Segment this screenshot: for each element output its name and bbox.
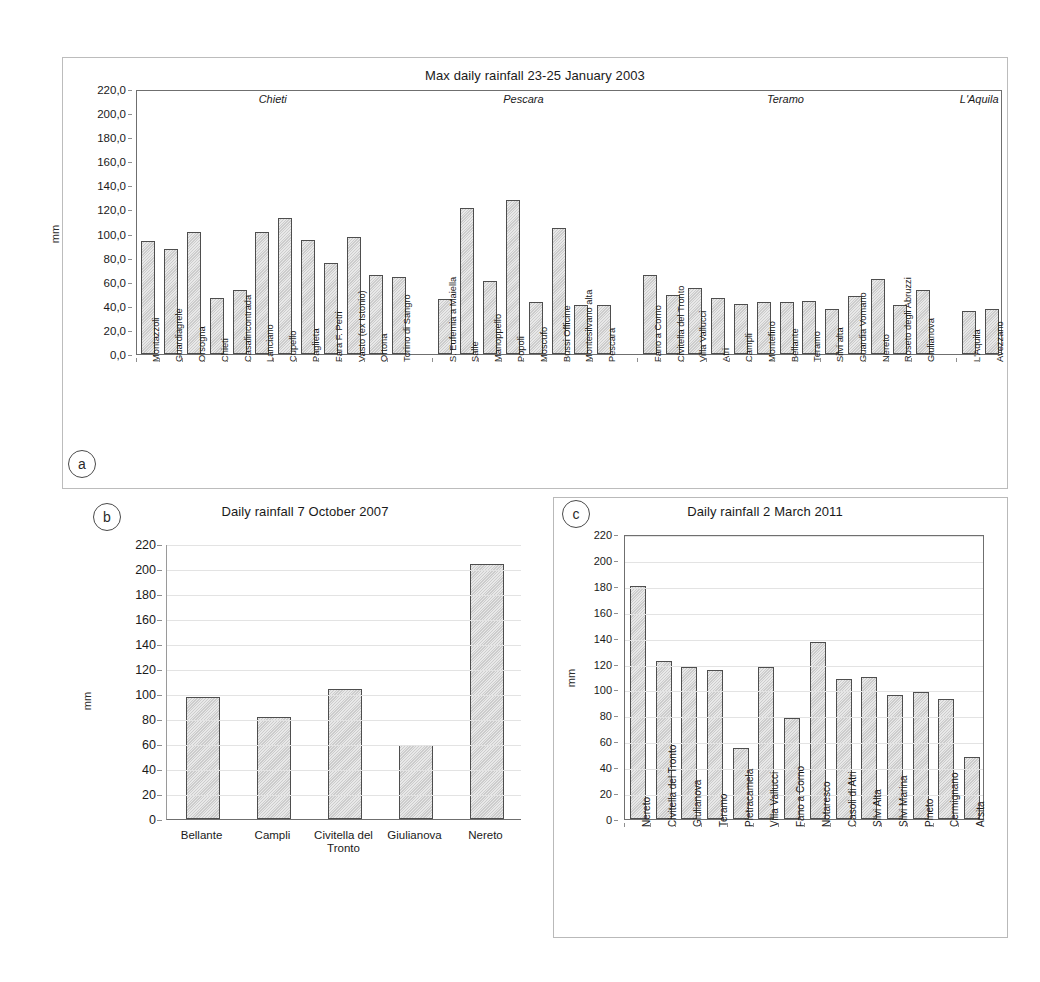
y-tick-mark <box>614 665 618 666</box>
y-tick-label: 220,0 <box>58 84 132 96</box>
x-tick-label: Guardiagrele <box>174 308 184 362</box>
panel-c-letter: c <box>573 506 580 522</box>
x-tick-mark <box>364 358 365 362</box>
x-tick-label: Torino di Sangro <box>402 294 412 362</box>
x-tick-mark <box>546 358 547 362</box>
grid-line <box>625 536 983 537</box>
grid-line <box>167 745 521 746</box>
x-tick-label: Teramo <box>812 331 822 362</box>
x-tick-label: L'Aquila <box>972 329 982 362</box>
y-tick-mark <box>614 690 618 691</box>
y-tick-label: 160 <box>572 607 618 619</box>
y-tick-label: 40,0 <box>58 301 132 313</box>
x-tick-label: Arsita <box>975 801 986 827</box>
group-label-teramo: Teramo <box>637 93 933 105</box>
bar <box>506 200 520 354</box>
x-tick-mark <box>933 823 934 827</box>
y-tick-label: 80 <box>94 713 162 727</box>
x-tick-mark <box>907 823 908 827</box>
panel-a-plot: 0,020,040,060,080,0100,0120,0140,0160,01… <box>64 90 1008 365</box>
x-tick-label: Cermignano <box>949 773 960 827</box>
x-tick-label: Orsogna <box>197 326 207 362</box>
y-tick-label: 180 <box>94 588 162 602</box>
x-tick-label: Atri <box>721 348 731 362</box>
y-tick-label: 160,0 <box>58 156 132 168</box>
grid-line <box>167 770 521 771</box>
x-tick-mark <box>706 358 707 362</box>
y-tick-label: 200 <box>572 555 618 567</box>
x-tick-mark <box>159 358 160 362</box>
x-tick-mark <box>865 358 866 362</box>
y-tick-mark <box>128 210 132 211</box>
x-tick-mark <box>296 358 297 362</box>
x-tick-label: Nereto <box>881 334 891 362</box>
y-tick-label: 0 <box>94 813 162 827</box>
x-tick-label: Civitella del Tronto <box>308 829 379 855</box>
x-tick-mark <box>569 358 570 362</box>
x-tick-mark <box>227 358 228 362</box>
x-tick-label: Nereto <box>450 829 521 842</box>
x-tick-label: Casoli di Atri <box>847 771 858 827</box>
y-tick-mark <box>614 768 618 769</box>
x-tick-label: Chieti <box>220 338 230 362</box>
grid-line <box>625 691 983 692</box>
y-tick-mark <box>128 90 132 91</box>
x-tick-label: Fano a Corno <box>653 305 663 362</box>
bar <box>328 689 362 819</box>
panel-b-marker: b <box>93 503 121 531</box>
y-tick-label: 0,0 <box>58 349 132 361</box>
x-tick-label: Guardia Vomano <box>858 292 868 362</box>
bar <box>711 298 725 354</box>
x-tick-mark <box>804 823 805 827</box>
x-tick-mark <box>778 823 779 827</box>
x-tick-label: Campli <box>237 829 308 842</box>
grid-line <box>167 670 521 671</box>
y-tick-label: 20,0 <box>58 325 132 337</box>
x-tick-label: Montefino <box>767 321 777 362</box>
y-tick-mark <box>614 613 618 614</box>
x-tick-mark <box>592 358 593 362</box>
x-tick-label: Moscufo <box>539 327 549 362</box>
y-tick-label: 140 <box>94 638 162 652</box>
y-tick-label: 40 <box>94 763 162 777</box>
x-tick-label: Silvi Marina <box>898 775 909 827</box>
figure-root: a Max daily rainfall 23-25 January 2003 … <box>0 0 1040 982</box>
bar <box>630 586 646 819</box>
group-label-l-aquila: L'Aquila <box>956 93 1002 105</box>
x-tick-label: Casalincontrada <box>243 295 253 362</box>
x-tick-label: Roseto degli Abruzzi <box>903 277 913 362</box>
x-tick-label: Bussi Officine <box>562 305 572 362</box>
grid-line <box>625 666 983 667</box>
y-tick-label: 200,0 <box>58 108 132 120</box>
y-tick-label: 80 <box>572 710 618 722</box>
y-tick-label: 100,0 <box>58 229 132 241</box>
panel-c-plot: 020406080100120140160180200220 NeretoCiv… <box>578 535 1008 935</box>
x-tick-label: Pescara <box>607 328 617 362</box>
y-tick-label: 180,0 <box>58 132 132 144</box>
panel-c-marker: c <box>562 500 590 528</box>
x-tick-mark <box>136 358 137 362</box>
x-tick-mark <box>888 358 889 362</box>
x-tick-mark <box>820 358 821 362</box>
x-tick-label: Cupello <box>288 330 298 362</box>
y-tick-mark <box>128 138 132 139</box>
x-tick-mark <box>881 823 882 827</box>
x-tick-label: Ortona <box>379 334 389 362</box>
x-tick-mark <box>455 358 456 362</box>
x-tick-mark <box>501 358 502 362</box>
y-tick-mark <box>157 820 162 821</box>
x-tick-mark <box>830 823 831 827</box>
grid-line <box>625 717 983 718</box>
x-tick-mark <box>387 358 388 362</box>
x-tick-label: Manoppello <box>493 314 503 362</box>
bar <box>460 208 474 354</box>
panel-a-marker: a <box>68 450 96 478</box>
x-tick-mark <box>660 358 661 362</box>
x-tick-mark <box>204 358 205 362</box>
x-tick-mark <box>478 358 479 362</box>
x-tick-label: Salle <box>470 341 480 362</box>
panel-b-title: Daily rainfall 7 October 2007 <box>140 504 470 519</box>
panel-a-title: Max daily rainfall 23-25 January 2003 <box>62 68 1008 83</box>
y-tick-mark <box>157 670 162 671</box>
y-tick-mark <box>157 620 162 621</box>
